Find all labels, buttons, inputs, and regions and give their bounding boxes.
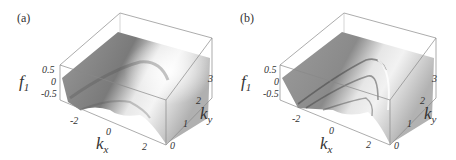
x-axis-label: kx [96, 134, 108, 155]
surface-plot-b [228, 0, 456, 160]
y-axis-label: ky [424, 104, 436, 125]
y-tick: 1 [183, 118, 188, 129]
z-tick: 0.5 [42, 64, 55, 75]
x-tick: 2 [366, 139, 371, 150]
panel-b: (b) 0.5 0 -0.5 f1 -2 0 2 kx 0 1 2 3 ky [228, 0, 456, 160]
y-tick: 1 [407, 118, 412, 129]
x-tick: 2 [142, 141, 147, 152]
panel-a: (a) 0.5 0 -0.5 f1 -2 0 2 kx 0 1 2 3 ky [0, 0, 228, 160]
y-tick: 0 [170, 140, 175, 151]
x-axis-label: kx [320, 134, 332, 155]
y-axis-label: ky [200, 104, 212, 125]
z-tick: 0 [274, 76, 279, 87]
z-tick: 0 [51, 76, 56, 87]
z-axis-label: f1 [241, 72, 251, 93]
x-tick: -2 [70, 115, 78, 126]
z-tick: -0.5 [263, 88, 279, 99]
y-tick: 3 [432, 73, 437, 84]
panel-label-b: (b) [240, 11, 254, 26]
x-tick: -2 [292, 113, 300, 124]
z-tick: -0.5 [41, 88, 57, 99]
z-axis-label: f1 [19, 72, 29, 93]
y-tick: 0 [394, 140, 399, 151]
y-tick: 3 [208, 73, 213, 84]
surface-plot-a [0, 0, 228, 160]
panel-label-a: (a) [17, 11, 30, 26]
z-tick: 0.5 [264, 64, 277, 75]
